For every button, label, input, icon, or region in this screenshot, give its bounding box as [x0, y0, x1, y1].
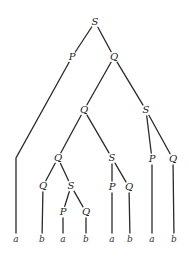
tree-node-s: S	[92, 16, 99, 27]
tree-leaf-b: b	[171, 234, 177, 244]
tree-edge	[46, 163, 55, 180]
tree-node-q: Q	[169, 153, 177, 164]
tree-edge	[61, 163, 69, 180]
tree-edge	[149, 115, 170, 153]
tree-leaf-a: a	[60, 234, 65, 244]
tree-edge	[147, 116, 152, 153]
edges-layer	[16, 27, 174, 233]
tree-leaf-a: a	[149, 234, 154, 244]
tree-node-q: Q	[82, 206, 90, 217]
tree-edge	[117, 62, 143, 105]
tree-node-q: Q	[54, 152, 62, 163]
tree-edge	[129, 193, 130, 233]
tree-svg: SPQQSQSPQQSPQPQ abababab	[0, 0, 189, 261]
tree-leaf-b: b	[39, 234, 45, 244]
tree-node-p: P	[148, 153, 156, 164]
tree-edge	[42, 192, 43, 233]
tree-edge	[75, 27, 91, 52]
tree-node-p: P	[108, 181, 116, 192]
parse-tree-diagram: SPQQSQSPQQSPQPQ abababab	[0, 0, 189, 261]
tree-edge	[61, 115, 81, 152]
tree-node-q: Q	[80, 104, 88, 115]
tree-edge	[173, 165, 174, 233]
tree-edge	[87, 115, 109, 153]
tree-edge	[98, 27, 111, 51]
tree-leaf-b: b	[127, 234, 133, 244]
tree-node-q: Q	[39, 180, 47, 191]
tree-node-q: Q	[110, 51, 118, 62]
tree-node-p: P	[68, 51, 76, 62]
tree-node-s: S	[68, 180, 75, 191]
tree-edge	[115, 163, 126, 182]
leaves-layer: abababab	[13, 234, 177, 244]
tree-edge	[65, 192, 69, 207]
tree-edge	[74, 191, 83, 207]
tree-node-s: S	[109, 152, 116, 163]
tree-node-s: S	[143, 104, 150, 115]
tree-leaf-a: a	[13, 234, 18, 244]
tree-leaf-b: b	[83, 234, 89, 244]
tree-leaf-a: a	[109, 234, 114, 244]
tree-edge	[87, 62, 111, 105]
tree-node-q: Q	[125, 181, 133, 192]
tree-node-p: P	[59, 206, 67, 217]
